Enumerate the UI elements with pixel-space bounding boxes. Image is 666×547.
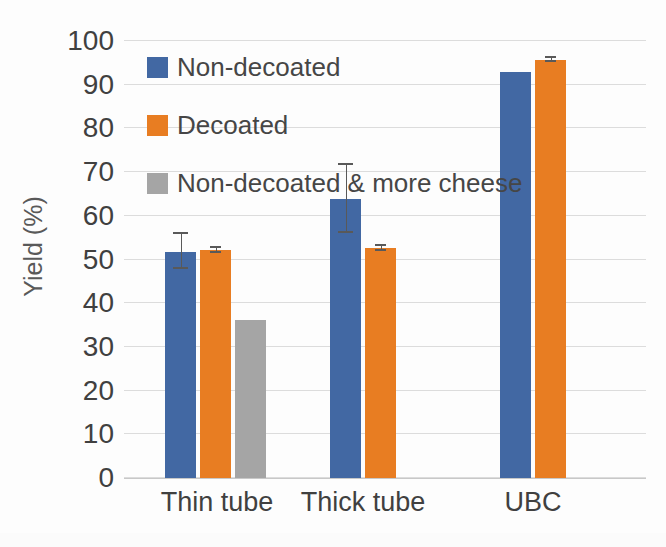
bar [235, 320, 266, 478]
error-bar-cap-bottom [375, 249, 386, 251]
y-tick-label: 50 [50, 246, 114, 274]
axis-baseline [124, 478, 646, 479]
legend-swatch-non-decoated-icon [147, 57, 168, 78]
bottom-edge-strip [0, 533, 666, 547]
bar [165, 252, 196, 478]
bar [330, 199, 361, 478]
error-bar-cap-top [375, 244, 386, 246]
y-tick-label: 80 [50, 114, 114, 142]
legend-item[interactable]: Non-decoated [147, 38, 567, 96]
error-bar-cap-bottom [338, 231, 353, 233]
legend-item[interactable]: Non-decoated & more cheese [147, 154, 567, 212]
y-tick-label: 70 [50, 158, 114, 186]
legend-swatch-non-decoated-more-cheese-icon [147, 173, 168, 194]
error-bar-cap-top [210, 246, 221, 248]
y-tick-label: 10 [50, 420, 114, 448]
legend-label: Non-decoated [177, 54, 340, 80]
legend-label: Decoated [177, 112, 288, 138]
x-tick-label: UBC [423, 487, 643, 518]
bar-chart: Yield (%) 1009080706050403020100 Thin tu… [0, 0, 666, 547]
error-bar-cap-top [173, 232, 188, 234]
y-axis-tick-labels: 1009080706050403020100 [36, 0, 114, 547]
bar [200, 250, 231, 478]
y-tick-label: 20 [50, 377, 114, 405]
chart-legend: Non-decoatedDecoatedNon-decoated & more … [147, 38, 567, 212]
error-bar-cap-bottom [210, 251, 221, 253]
y-tick-label: 90 [50, 71, 114, 99]
y-tick-label: 40 [50, 289, 114, 317]
legend-item[interactable]: Decoated [147, 96, 567, 154]
legend-label: Non-decoated & more cheese [177, 170, 522, 196]
y-tick-label: 100 [50, 27, 114, 55]
legend-swatch-decoated-icon [147, 115, 168, 136]
error-bar [181, 234, 182, 269]
y-tick-label: 0 [50, 464, 114, 492]
gridline [124, 215, 646, 216]
bar [365, 248, 396, 478]
y-tick-label: 60 [50, 202, 114, 230]
error-bar-cap-bottom [173, 267, 188, 269]
y-tick-label: 30 [50, 333, 114, 361]
